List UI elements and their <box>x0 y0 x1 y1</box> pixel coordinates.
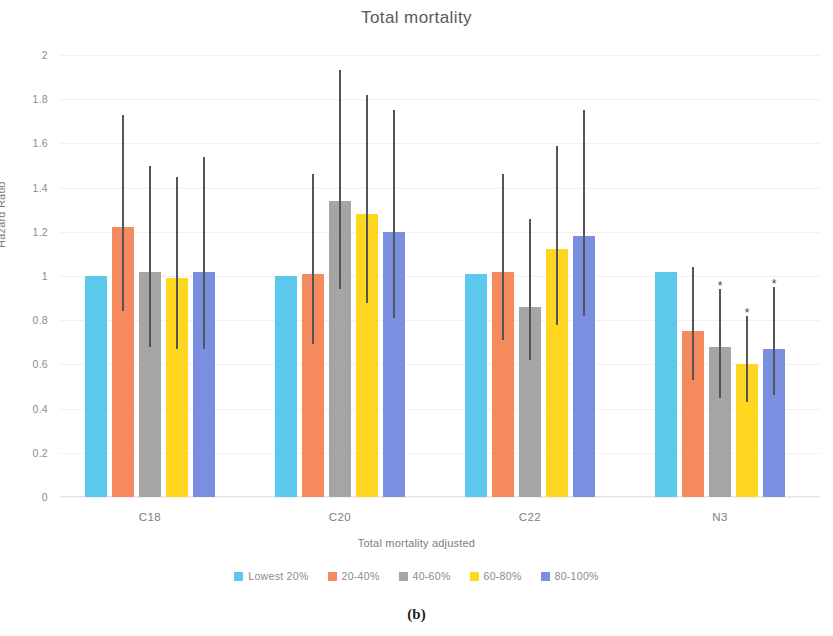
figure-caption: (b) <box>0 606 833 623</box>
legend-label: 80-100% <box>555 570 599 582</box>
chart-legend: Lowest 20%20-40%40-60%60-80%80-100% <box>0 570 833 582</box>
error-bar <box>149 166 151 347</box>
error-bar <box>556 146 558 325</box>
error-bar <box>719 289 721 397</box>
significance-marker: * <box>718 280 723 292</box>
bar <box>85 276 107 497</box>
significance-marker: * <box>745 307 750 319</box>
x-axis-category-label: N3 <box>712 511 728 523</box>
y-axis-tick-label: 0.4 <box>2 403 48 415</box>
bar <box>275 276 297 497</box>
x-axis-category-label: C18 <box>139 511 161 523</box>
error-bar <box>176 177 178 349</box>
error-bar <box>773 287 775 395</box>
gridline <box>60 497 820 498</box>
y-axis-tick-label: 0 <box>2 491 48 503</box>
error-bar <box>203 157 205 349</box>
x-axis-title: Total mortality adjusted <box>0 537 833 549</box>
error-bar <box>366 95 368 303</box>
y-axis-tick-label: 1 <box>2 270 48 282</box>
y-axis-tick-label: 1.8 <box>2 93 48 105</box>
legend-swatch-icon <box>470 572 479 581</box>
y-axis-tick-label: 1.2 <box>2 226 48 238</box>
chart-title: Total mortality <box>0 8 833 28</box>
gridline <box>60 99 820 100</box>
legend-label: 60-80% <box>484 570 522 582</box>
legend-swatch-icon <box>234 572 243 581</box>
bar <box>465 274 487 497</box>
x-axis-category-label: C20 <box>329 511 351 523</box>
plot-area: 00.20.40.60.811.21.41.61.82 *** C18C20C2… <box>60 55 820 497</box>
gridline <box>60 232 820 233</box>
legend-swatch-icon <box>541 572 550 581</box>
error-bar <box>692 267 694 380</box>
error-bar <box>502 174 504 340</box>
error-bar <box>529 219 531 360</box>
y-axis-tick-label: 1.6 <box>2 137 48 149</box>
legend-item[interactable]: 40-60% <box>399 570 451 582</box>
error-bar <box>122 115 124 312</box>
bar <box>655 272 677 497</box>
legend-label: 20-40% <box>342 570 380 582</box>
legend-label: Lowest 20% <box>248 570 308 582</box>
legend-swatch-icon <box>399 572 408 581</box>
error-bar <box>583 110 585 316</box>
gridline <box>60 188 820 189</box>
error-bar <box>339 70 341 289</box>
y-axis-tick-label: 2 <box>2 49 48 61</box>
significance-marker: * <box>772 278 777 290</box>
error-bar <box>393 110 395 318</box>
legend-label: 40-60% <box>413 570 451 582</box>
x-axis-category-label: C22 <box>519 511 541 523</box>
y-axis-tick-label: 0.6 <box>2 358 48 370</box>
y-axis-tick-label: 1.4 <box>2 182 48 194</box>
y-axis-tick-label: 0.2 <box>2 447 48 459</box>
figure-panel-b: Total mortality Hazard Ratio 00.20.40.60… <box>0 0 833 636</box>
gridline <box>60 276 820 277</box>
error-bar <box>746 316 748 402</box>
legend-item[interactable]: 60-80% <box>470 570 522 582</box>
gridline <box>60 143 820 144</box>
legend-item[interactable]: Lowest 20% <box>234 570 308 582</box>
legend-item[interactable]: 20-40% <box>328 570 380 582</box>
legend-swatch-icon <box>328 572 337 581</box>
y-axis-tick-label: 0.8 <box>2 314 48 326</box>
error-bar <box>312 174 314 344</box>
gridline <box>60 55 820 56</box>
legend-item[interactable]: 80-100% <box>541 570 599 582</box>
